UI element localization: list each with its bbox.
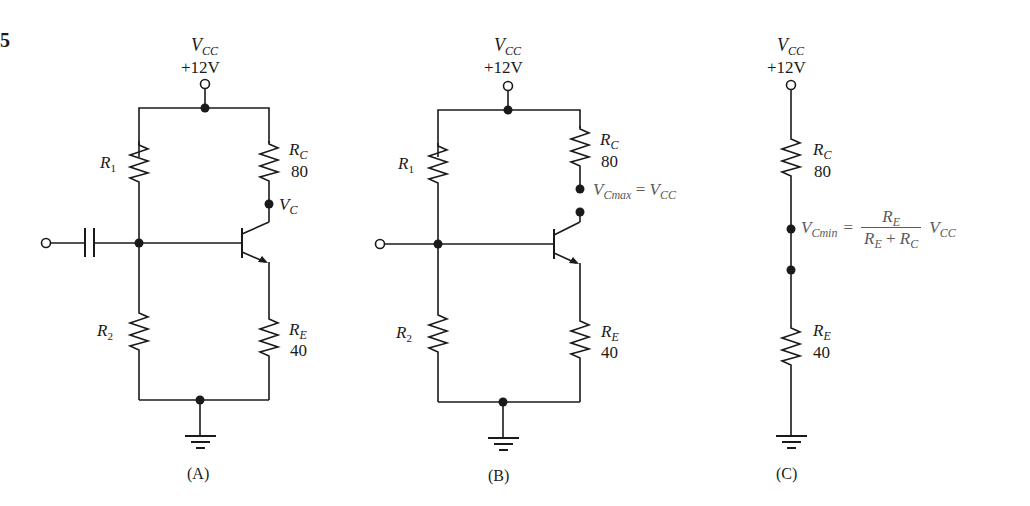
vcc-value-c: +12V	[767, 59, 806, 76]
vcc-label-c: VCC	[777, 36, 804, 54]
rc-value-c: 80	[814, 163, 831, 180]
vcc-subscript: CC	[660, 188, 676, 202]
r1-symbol: R	[398, 154, 408, 173]
re-value-b: 40	[601, 344, 618, 361]
rc-symbol: R	[289, 140, 299, 159]
r1-label-a: R1	[100, 154, 116, 171]
r2-subscript: 2	[406, 332, 412, 344]
r2-symbol: R	[97, 321, 107, 340]
open-node-dot-upper-icon	[576, 185, 585, 194]
vc-subscript: C	[289, 203, 297, 217]
rc-label-a: RC	[289, 141, 307, 158]
panel-c-circuit	[776, 81, 807, 449]
re-subscript: E	[823, 329, 830, 343]
r1-subscript: 1	[408, 163, 414, 175]
re-value-c: 40	[813, 344, 830, 361]
vcmin-symbol: V	[801, 218, 811, 237]
vcc-subscript: CC	[788, 44, 804, 58]
caption-b: (B)	[488, 468, 509, 484]
r1-symbol: R	[100, 153, 110, 172]
vcc-subscript: CC	[940, 226, 956, 240]
caption-c: (C)	[776, 466, 797, 482]
rc-subscript: C	[299, 148, 307, 162]
vcc-symbol: V	[649, 180, 659, 199]
ground-icon	[776, 436, 807, 448]
vcc-value-a: +12V	[181, 59, 220, 76]
input-terminal-icon	[376, 240, 385, 249]
vcc-value-b: +12V	[484, 59, 523, 76]
resistor-r2-icon	[429, 312, 447, 402]
vcc-terminal-icon	[504, 82, 513, 91]
fraction: RE RE + RC	[861, 208, 921, 247]
rc-value-b: 80	[601, 153, 618, 170]
npn-transistor-icon	[554, 222, 580, 264]
vc-label-a: VC	[279, 196, 297, 213]
ground-icon	[488, 438, 519, 450]
vcc-factor: VCC	[929, 219, 955, 236]
r1-label-b: R1	[398, 155, 414, 172]
re-label-c: RE	[813, 322, 831, 339]
r2-subscript: 2	[107, 330, 113, 342]
panel-b-circuit	[376, 82, 590, 451]
re-symbol: R	[882, 207, 892, 226]
junction-dot-icon	[201, 104, 210, 113]
r2-label-b: R2	[396, 324, 412, 341]
resistor-rc-icon	[571, 126, 589, 188]
vcmin-lhs: VCmin	[801, 219, 837, 236]
vcc-symbol: V	[494, 35, 505, 55]
vcc-terminal-icon	[787, 81, 796, 90]
re-symbol: R	[864, 229, 874, 248]
equals-sign: =	[843, 219, 853, 236]
junction-dot-icon	[504, 106, 513, 115]
rc-symbol: R	[813, 140, 823, 159]
re-subscript: E	[893, 215, 900, 229]
resistor-rc-icon	[260, 141, 278, 203]
r2-label-a: R2	[97, 322, 113, 339]
rc-value-a: 80	[291, 163, 308, 180]
rc-symbol: R	[600, 130, 610, 149]
caption-a: (A)	[187, 466, 209, 482]
re-label-a: RE	[289, 321, 307, 338]
figure-stage: 5 VCC +12V R1 RC 80 VC R2 RE 40 (A) VCC …	[0, 0, 1030, 506]
vcmax-symbol: V	[593, 180, 603, 199]
plus-sign: +	[886, 229, 896, 248]
rc-label-b: RC	[600, 131, 618, 148]
vcmax-subscript: Cmax	[603, 188, 631, 202]
re-subscript: E	[611, 330, 618, 344]
re-symbol: R	[289, 320, 299, 339]
resistor-re-icon	[782, 325, 800, 435]
rc-subscript: C	[823, 148, 831, 162]
r2-symbol: R	[396, 323, 406, 342]
figure-number: 5	[0, 30, 10, 50]
fraction-numerator: RE	[879, 208, 903, 227]
rc-label-c: RC	[813, 141, 831, 158]
rc-subscript: C	[910, 237, 918, 251]
vcc-symbol: V	[929, 218, 939, 237]
vcc-symbol: V	[191, 35, 202, 55]
ground-icon	[185, 436, 216, 448]
vcc-label-a: VCC	[191, 36, 218, 54]
resistor-rc-icon	[782, 136, 800, 228]
re-label-b: RE	[601, 323, 619, 340]
re-symbol: R	[601, 322, 611, 341]
vcc-terminal-icon	[201, 80, 210, 89]
fraction-denominator: RE + RC	[861, 227, 921, 247]
re-value-a: 40	[290, 342, 307, 359]
vcc-label-b: VCC	[494, 36, 521, 54]
panel-a-circuit	[42, 80, 279, 449]
vcmin-subscript: Cmin	[811, 226, 837, 240]
re-subscript: E	[874, 237, 881, 251]
re-symbol: R	[813, 321, 823, 340]
resistor-r2-icon	[130, 310, 148, 400]
resistor-re-icon	[571, 318, 589, 402]
input-terminal-icon	[42, 239, 51, 248]
re-subscript: E	[299, 328, 306, 342]
npn-transistor-icon	[242, 222, 269, 263]
resistor-re-icon	[260, 316, 278, 400]
rc-subscript: C	[610, 138, 618, 152]
vcc-subscript: CC	[202, 44, 218, 58]
rc-symbol: R	[900, 229, 910, 248]
vcc-symbol: V	[777, 35, 788, 55]
r1-subscript: 1	[110, 162, 116, 174]
vcmax-annotation: VCmax = VCC	[593, 181, 676, 198]
